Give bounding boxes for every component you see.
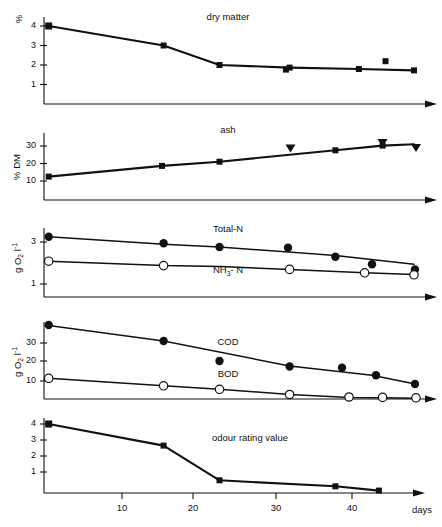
panel2-yticklabel-30: 30	[26, 140, 36, 150]
panel3-point-nh3-n	[410, 271, 418, 279]
panel4-bod-line	[49, 378, 416, 398]
panel3-yticklabel-3: 3	[31, 236, 36, 246]
panel1-x-axis-arrow	[425, 100, 437, 107]
panel1-yticklabel-1: 1	[31, 79, 36, 89]
panel-dry-matter: 4 3 2 1 % dry matter	[13, 11, 437, 108]
panel5-xticklabel-10: 10	[117, 502, 128, 513]
panel3-point-total-n	[159, 239, 167, 247]
panel1-y-axis-title: %	[13, 14, 24, 23]
panel3-point-total-n	[215, 243, 223, 251]
panel5-yticklabel-2: 2	[31, 450, 36, 460]
panel1-yticklabel-3: 3	[31, 40, 36, 50]
panel4-point-cod	[159, 337, 167, 345]
panel3-yticklabel-1: 1	[31, 278, 36, 288]
panel4-point-bod	[412, 394, 420, 402]
panel1-yticklabel-2: 2	[31, 59, 36, 69]
panel4-point-cod	[411, 380, 419, 388]
panel2-point	[46, 174, 52, 180]
panel3-point-total-n-outlier	[368, 260, 376, 268]
panel3-point-total-n-outlier	[284, 244, 292, 252]
svg-text:g O2 l-1: g O2 l-1	[11, 243, 24, 273]
panel2-yticklabel-10: 10	[26, 175, 36, 185]
panel4-point-cod-outlier	[338, 364, 346, 372]
panel3-total-n-line	[49, 237, 414, 264]
panel1-point	[411, 67, 417, 73]
panel2-point	[332, 147, 338, 153]
panel-ash: 30 20 10 % DM ash	[11, 124, 437, 204]
panel4-point-cod-outlier	[215, 357, 223, 365]
panel4-point-bod	[378, 393, 386, 401]
panel1-point-outlier	[283, 67, 289, 73]
panel5-point	[45, 421, 52, 428]
panel5-xticklabel-40: 40	[347, 502, 358, 513]
panel4-point-bod	[285, 390, 293, 398]
panel3-point-total-n	[45, 233, 53, 241]
panel2-point	[217, 159, 223, 165]
panel5-xticklabel-30: 30	[271, 502, 282, 513]
panel3-y-axis-title: g O2 l-1	[11, 243, 24, 273]
panel1-yticklabel-4: 4	[31, 20, 36, 30]
panel5-yticklabel-1: 1	[31, 466, 36, 476]
panel4-yticklabel-10: 10	[26, 375, 36, 385]
panel5-xticklabel-20: 20	[188, 502, 199, 513]
panel5-point	[332, 483, 338, 489]
panel4-y-axis-title: g O2 l-1	[11, 347, 24, 377]
panel4-point-bod	[45, 374, 53, 382]
panel-cod-bod: 30 20 10 g O2 l-1 COD BOD	[11, 321, 437, 403]
panel4-point-bod	[215, 385, 223, 393]
panel5-point	[161, 443, 167, 449]
panel-nitrogen: 3 1 g O2 l-1 Total-N NH3- N	[11, 223, 437, 301]
panel4-label-cod: COD	[217, 336, 238, 347]
panel2-point	[159, 163, 165, 169]
panel1-point	[356, 66, 362, 72]
panel5-title: odour rating value	[212, 432, 288, 443]
panel5-yticklabel-3: 3	[31, 434, 36, 444]
panel4-point-bod	[159, 382, 167, 390]
panel3-point-nh3-n	[45, 257, 53, 265]
panel4-label-bod: BOD	[218, 368, 239, 379]
panel4-yticklabel-30: 30	[26, 337, 36, 347]
multi-panel-figure: 4 3 2 1 % dry matter	[0, 0, 442, 527]
panel2-x-axis-arrow	[425, 196, 437, 203]
x-axis-title: days	[412, 504, 432, 515]
panel2-series-line	[49, 144, 414, 176]
panel1-point-outlier	[383, 58, 389, 64]
panel4-yticklabel-20: 20	[26, 355, 36, 365]
panel4-point-cod	[285, 362, 293, 370]
panel3-point-nh3-n	[360, 269, 368, 277]
panel1-point	[217, 62, 223, 68]
panel1-series-line	[49, 26, 414, 70]
panel3-label-total-n: Total-N	[213, 223, 243, 234]
panel3-x-axis-arrow	[425, 293, 437, 300]
panel4-point-cod	[45, 321, 53, 329]
panel1-point	[45, 23, 52, 30]
panel1-title: dry matter	[207, 11, 250, 22]
panel5-point	[217, 477, 223, 483]
panel2-title: ash	[220, 124, 235, 135]
panel2-yticklabel-20: 20	[26, 158, 36, 168]
panel4-point-cod	[372, 371, 380, 379]
panel3-point-nh3-n	[159, 261, 167, 269]
panel5-point	[376, 488, 382, 494]
svg-text:g O2 l-1: g O2 l-1	[11, 347, 24, 377]
figure-svg: 4 3 2 1 % dry matter	[0, 0, 442, 527]
panel2-point-triangle	[286, 145, 296, 153]
panel2-y-axis-title: % DM	[11, 154, 22, 180]
panel5-x-axis-arrow	[413, 489, 425, 496]
panel4-point-bod	[345, 393, 353, 401]
panel1-point	[161, 43, 167, 49]
panel4-x-axis-arrow	[425, 395, 437, 402]
panel3-point-nh3-n	[285, 265, 293, 273]
panel-odour: 4 3 2 1 odour rating value 10 20 30 40 d…	[31, 418, 432, 515]
panel5-yticklabel-4: 4	[31, 418, 36, 428]
panel2-point-triangle	[411, 144, 421, 152]
panel3-point-total-n	[331, 253, 339, 261]
